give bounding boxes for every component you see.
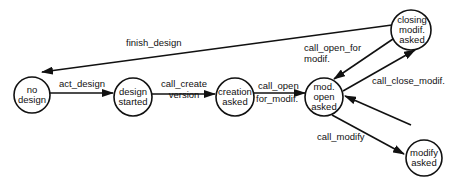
edge-label-call-modify: call_modify [317,131,365,142]
node-line: asked [391,35,433,45]
edge-label-act-design: act_design [59,78,105,89]
label-line: call_create [157,78,211,89]
node-label-no-design: no design [14,85,50,105]
node-line: design [14,95,50,105]
edge-label-call-open-for-modif: call_open for_modif. [256,80,299,104]
edge-label-call-close-modif: call_close_modif. [372,75,445,86]
node-line: started [114,97,152,107]
node-line: asked [405,158,443,168]
node-label-creation-asked: creation asked [214,87,256,107]
label-line: call_open_for [304,42,361,53]
node-label-modify-asked: modify asked [405,148,443,168]
edge-modify-return [345,96,411,125]
edge-label-call-open-for-modif-return: call_open_for modif. [304,42,361,64]
edge-label-call-create-version: call_create version [157,78,211,100]
label-line: version [157,89,211,100]
label-line: call_open [256,80,299,91]
node-label-design-started: design started [114,87,152,107]
node-line: asked [214,97,256,107]
label-line: for_modif. [256,93,299,104]
node-line: asked [305,102,343,112]
label-line: modif. [304,53,361,64]
node-label-mod-open-asked: mod. open asked [305,82,343,112]
edge-label-finish-design: finish_design [126,37,181,48]
node-label-closing-modif-asked: closing modif. asked [391,15,433,45]
